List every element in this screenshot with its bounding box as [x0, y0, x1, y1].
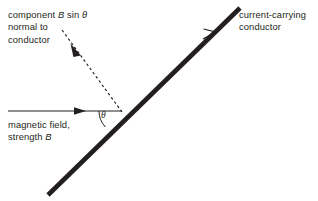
component-label: component B sin θnormal toconductor: [8, 9, 87, 46]
magnetic-field-label-line2-pre: strength: [8, 131, 45, 142]
component-label-line2: normal to: [8, 21, 48, 32]
physics-diagram: θ component B sin θnormal toconductor ma…: [0, 0, 318, 201]
conductor-label: current-carryingconductor: [239, 9, 306, 34]
conductor-label-line2: conductor: [239, 21, 281, 32]
magnetic-field-label-b-symbol: B: [45, 131, 51, 142]
component-label-theta-symbol: θ: [82, 9, 87, 20]
component-label-line1-mid: sin: [64, 9, 82, 20]
component-label-line3: conductor: [8, 34, 50, 45]
conductor-label-line1: current-carrying: [239, 9, 306, 20]
magnetic-field-arrowhead-icon: [74, 107, 86, 115]
component-label-line1-pre: component: [8, 9, 58, 20]
angle-theta-label: θ: [101, 110, 106, 120]
magnetic-field-label-line1: magnetic field,: [8, 119, 70, 130]
magnetic-field-label: magnetic field,strength B: [8, 119, 70, 144]
